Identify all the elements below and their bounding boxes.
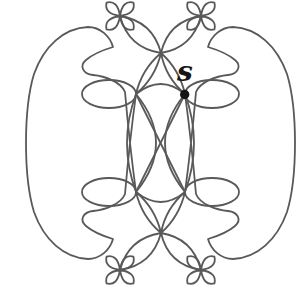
curve-figure: s [0,0,298,297]
petal-top-to-upper-left [136,53,161,94]
outer-arc-left [26,27,136,259]
petal-bottom-to-lower-left [136,192,161,233]
petal-bottom-to-lower-right [161,192,185,233]
curve-strokes [26,2,295,284]
leaf-top-right [161,16,201,53]
base-point-s-label: s [176,55,193,88]
leaf-bottom-right [161,233,201,270]
base-point-s-dot [180,90,189,99]
ellipse-lobe-lower-right [185,178,239,206]
vertical-lens-left [127,94,156,192]
ellipse-lobe-upper-left [82,80,136,108]
leaf-bottom-left [120,233,161,270]
shallow-arc-lower-nodes [136,192,185,202]
ellipse-lobe-upper-right [185,80,239,108]
ellipse-lobe-lower-left [82,178,136,206]
outer-arc-right [185,27,295,259]
figure-canvas: s [0,0,298,297]
vertical-lens-right [165,94,194,192]
leaf-top-left [120,16,161,53]
